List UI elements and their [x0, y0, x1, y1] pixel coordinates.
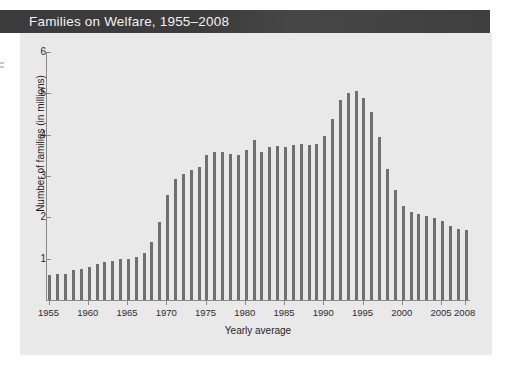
- x-tick-label: 1980: [234, 307, 255, 318]
- bar: [135, 257, 138, 300]
- x-axis-line: [46, 300, 470, 301]
- bar: [402, 206, 405, 300]
- bar: [174, 179, 177, 300]
- bar: [88, 267, 91, 300]
- bar: [323, 136, 326, 300]
- bar: [378, 137, 381, 300]
- x-axis-title: Yearly average: [46, 325, 470, 336]
- bar: [80, 269, 83, 300]
- bar: [237, 155, 240, 300]
- x-tick-mark: [363, 301, 364, 305]
- x-tick-mark: [284, 301, 285, 305]
- bar: [331, 119, 334, 300]
- x-tick-label: 1965: [116, 307, 137, 318]
- bar: [410, 212, 413, 300]
- x-tick-label: 1955: [38, 307, 59, 318]
- x-tick-mark: [323, 301, 324, 305]
- bar: [190, 170, 193, 300]
- bar: [111, 261, 114, 300]
- bar: [143, 253, 146, 300]
- x-tick-mark: [206, 301, 207, 305]
- x-tick-label: 1970: [156, 307, 177, 318]
- bar: [198, 167, 201, 300]
- bar: [48, 275, 51, 300]
- bar: [253, 140, 256, 300]
- bar: [425, 216, 428, 300]
- bar: [245, 150, 248, 300]
- x-tick-label: 2005: [431, 307, 452, 318]
- x-tick-label: 1975: [195, 307, 216, 318]
- bar: [213, 152, 216, 300]
- bar: [166, 195, 169, 300]
- x-tick-label: 2008: [454, 307, 475, 318]
- x-tick-mark: [441, 301, 442, 305]
- bar: [150, 242, 153, 300]
- x-tick-mark: [245, 301, 246, 305]
- y-tick-label-wrap: 1: [20, 254, 46, 264]
- bar: [96, 264, 99, 300]
- page-title: Families on Welfare, 1955–2008: [0, 14, 229, 29]
- chart-panel: 123456 Number of families (in millions) …: [20, 33, 492, 355]
- x-tick-mark: [166, 301, 167, 305]
- bar: [300, 144, 303, 300]
- bar: [182, 174, 185, 300]
- bar: [127, 259, 130, 300]
- bar: [394, 190, 397, 300]
- bar: [229, 154, 232, 300]
- bar: [449, 226, 452, 300]
- bar: [417, 214, 420, 300]
- x-tick-label: 1960: [77, 307, 98, 318]
- bar: [441, 221, 444, 300]
- bar: [284, 147, 287, 300]
- x-tick-label: 1990: [313, 307, 334, 318]
- bar: [158, 222, 161, 300]
- chart-title-bar: Families on Welfare, 1955–2008: [0, 10, 490, 33]
- bar: [268, 147, 271, 300]
- bar: [292, 145, 295, 300]
- x-tick-label: 1985: [273, 307, 294, 318]
- bar: [339, 100, 342, 300]
- bar: [103, 262, 106, 300]
- bar: [457, 229, 460, 300]
- bar: [465, 230, 468, 300]
- x-tick-mark: [402, 301, 403, 305]
- x-tick-label: 1995: [352, 307, 373, 318]
- page-edge-mark-top: [0, 62, 4, 64]
- page-edge-mark-bottom: [0, 66, 4, 68]
- bar: [433, 218, 436, 300]
- bar: [205, 155, 208, 300]
- bar: [56, 274, 59, 300]
- bar: [72, 270, 75, 300]
- bar: [370, 112, 373, 300]
- x-tick-mark: [49, 301, 50, 305]
- bar: [308, 145, 311, 300]
- x-tick-mark: [127, 301, 128, 305]
- x-tick-mark: [88, 301, 89, 305]
- bar: [64, 274, 67, 300]
- y-axis-title: Number of families (in millions): [35, 44, 46, 244]
- bar: [347, 93, 350, 300]
- x-tick-mark: [465, 301, 466, 305]
- y-tick-label: 1: [24, 254, 46, 264]
- bar: [362, 98, 365, 300]
- bar: [355, 91, 358, 300]
- bar: [119, 259, 122, 300]
- bar: [276, 146, 279, 300]
- bar-series: [47, 52, 471, 300]
- bar: [315, 144, 318, 300]
- bar: [260, 152, 263, 300]
- bar: [221, 152, 224, 300]
- bar: [386, 169, 389, 300]
- x-tick-label: 2000: [391, 307, 412, 318]
